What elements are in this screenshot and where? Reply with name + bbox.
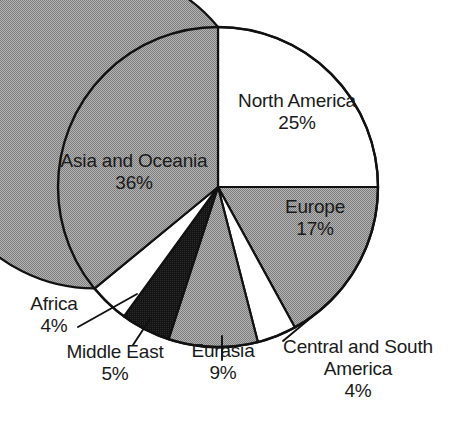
slice-label-percent: 4% [268, 380, 448, 402]
slice-label-middle-east: Middle East 5% [50, 341, 180, 385]
slice-label-percent: 4% [8, 315, 100, 337]
slice-label-name: Eurasia [168, 340, 278, 362]
slice-label-percent: 5% [50, 363, 180, 385]
slice-label-name-line2: America [268, 358, 448, 380]
slice-label-africa: Africa 4% [8, 293, 100, 337]
slice-label-name-line1: Central and South [268, 336, 448, 358]
slice-label-north-america: North America 25% [222, 90, 372, 134]
slice-label-percent: 17% [256, 218, 374, 240]
slice-label-name: Asia and Oceania [44, 150, 224, 172]
slice-label-europe: Europe 17% [256, 196, 374, 240]
slice-label-name: Middle East [50, 341, 180, 363]
pie-chart-figure: North America 25% Europe 17% Asia and Oc… [0, 0, 454, 430]
slice-label-name: Africa [8, 293, 100, 315]
slice-label-name: North America [222, 90, 372, 112]
slice-label-asia-and-oceania: Asia and Oceania 36% [44, 150, 224, 194]
slice-label-name: Europe [256, 196, 374, 218]
slice-label-central-and-south-america: Central and South America 4% [268, 336, 448, 402]
slice-label-percent: 9% [168, 362, 278, 384]
slice-label-percent: 36% [44, 172, 224, 194]
slice-label-percent: 25% [222, 112, 372, 134]
slice-label-eurasia: Eurasia 9% [168, 340, 278, 384]
